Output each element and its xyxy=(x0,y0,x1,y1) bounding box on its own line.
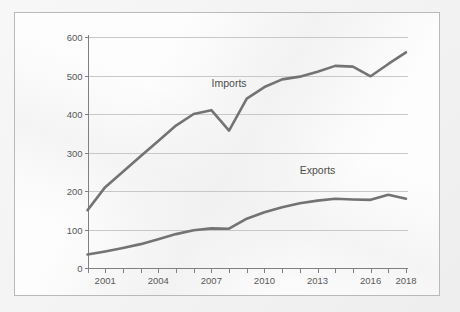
line-chart: 0100200300400500600 20012004200720102013… xyxy=(15,13,440,296)
y-tick-labels: 0100200300400500600 xyxy=(67,32,83,274)
y-tick-label-200: 200 xyxy=(67,186,83,197)
x-tick-label-2010: 2010 xyxy=(254,275,275,286)
page-root: 0100200300400500600 20012004200720102013… xyxy=(0,0,460,312)
grid-lines xyxy=(88,38,409,269)
x-tick-label-2001: 2001 xyxy=(95,275,116,286)
y-tick-label-300: 300 xyxy=(67,148,83,159)
y-tick-label-500: 500 xyxy=(67,71,83,82)
series-line-exports xyxy=(88,195,407,255)
x-tick-label-2018: 2018 xyxy=(395,275,416,286)
series-label-imports: Imports xyxy=(212,77,247,89)
x-tick-label-2004: 2004 xyxy=(148,275,169,286)
x-tick-label-2016: 2016 xyxy=(360,275,381,286)
x-tick-labels: 2001200420072010201320162018 xyxy=(95,275,417,286)
x-tick-label-2013: 2013 xyxy=(307,275,328,286)
series-label-exports: Exports xyxy=(300,164,336,176)
chart-card: 0100200300400500600 20012004200720102013… xyxy=(14,12,440,296)
y-tick-label-600: 600 xyxy=(67,32,83,43)
y-tick-label-100: 100 xyxy=(67,225,83,236)
x-tick-label-2007: 2007 xyxy=(201,275,222,286)
y-tick-label-400: 400 xyxy=(67,109,83,120)
y-tick-label-0: 0 xyxy=(77,263,82,274)
